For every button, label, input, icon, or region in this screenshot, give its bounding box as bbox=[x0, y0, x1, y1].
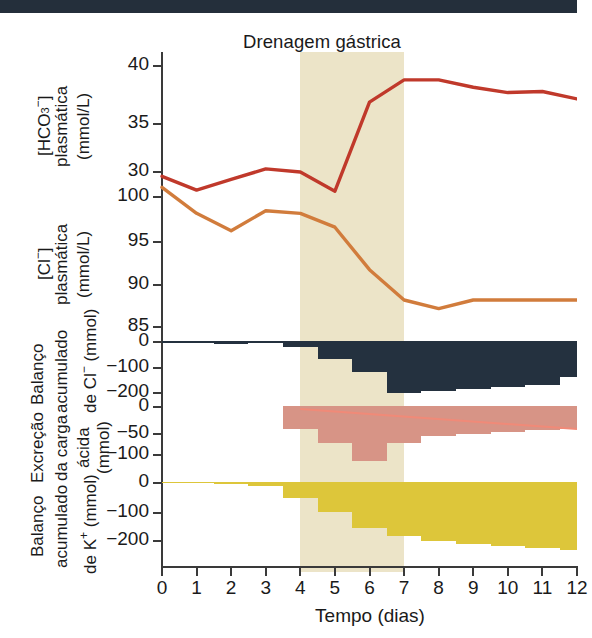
bar-cl-balance-day-10 bbox=[491, 341, 526, 387]
bar-cl-balance-day-4 bbox=[283, 341, 318, 347]
xtick-mark-3 bbox=[265, 566, 267, 576]
bar-k-balance-day-2 bbox=[214, 482, 249, 484]
x-axis-title: Tempo (dias) bbox=[162, 605, 578, 627]
bar-k-balance-day-7 bbox=[387, 482, 422, 536]
bar-k-balance-day-1 bbox=[179, 482, 214, 483]
xtick-mark-4 bbox=[299, 566, 301, 576]
xtick-mark-7 bbox=[403, 566, 405, 576]
bar-cl-balance-day-2 bbox=[214, 341, 249, 344]
bar-k-balance-day-3 bbox=[248, 482, 283, 486]
top-black-bar bbox=[0, 0, 577, 13]
bar-cl-balance-day-11 bbox=[525, 341, 560, 385]
bar-k-balance-day-11 bbox=[525, 482, 560, 548]
bar-k-balance-day-0 bbox=[162, 482, 179, 483]
bar-k-balance-day-12 bbox=[560, 482, 577, 550]
bar-acid-excretion-day-8 bbox=[421, 406, 456, 436]
xtick-mark-2 bbox=[230, 566, 232, 576]
bar-cl-balance-day-5 bbox=[318, 341, 353, 359]
bar-cl-balance-day-7 bbox=[387, 341, 422, 393]
xtick-mark-10 bbox=[507, 566, 509, 576]
series-line-hco3 bbox=[162, 80, 577, 191]
bar-cl-balance-day-8 bbox=[421, 341, 456, 391]
xtick-mark-0 bbox=[161, 566, 163, 576]
bar-k-balance-day-9 bbox=[456, 482, 491, 544]
xtick-label-12: 12 bbox=[557, 577, 592, 598]
xtick-mark-5 bbox=[334, 566, 336, 576]
xtick-mark-9 bbox=[472, 566, 474, 576]
bar-k-balance-day-4 bbox=[283, 482, 318, 498]
xtick-mark-11 bbox=[541, 566, 543, 576]
bar-cl-balance-day-3 bbox=[248, 341, 283, 343]
bar-cl-balance-day-1 bbox=[179, 341, 214, 343]
xtick-mark-6 bbox=[369, 566, 371, 576]
bar-cl-balance-day-6 bbox=[352, 341, 387, 372]
xtick-mark-1 bbox=[196, 566, 198, 576]
bar-cl-balance-day-9 bbox=[456, 341, 491, 389]
bar-k-balance-day-6 bbox=[352, 482, 387, 528]
bar-acid-excretion-day-10 bbox=[491, 406, 526, 432]
bar-k-balance-day-10 bbox=[491, 482, 526, 546]
bar-acid-excretion-day-7 bbox=[387, 406, 422, 443]
bar-cl-balance-day-12 bbox=[560, 341, 577, 377]
series-line-cl bbox=[162, 187, 577, 308]
xtick-mark-8 bbox=[438, 566, 440, 576]
series-layer bbox=[0, 13, 577, 638]
figure-canvas: Drenagem gástrica 40 35 30 100 95 90 85 … bbox=[0, 13, 577, 638]
bar-k-balance-day-5 bbox=[318, 482, 353, 512]
bar-k-balance-day-8 bbox=[421, 482, 456, 541]
bar-cl-balance-day-0 bbox=[162, 341, 179, 343]
xtick-mark-12 bbox=[576, 566, 578, 576]
bar-acid-excretion-day-12 bbox=[560, 406, 577, 429]
